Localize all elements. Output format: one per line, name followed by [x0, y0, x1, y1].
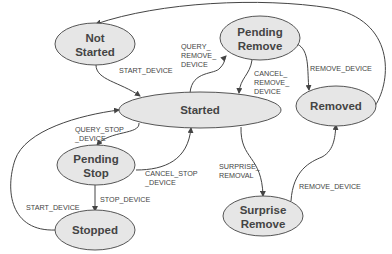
node-pending-stop: Pending Stop: [57, 145, 135, 185]
edge-label-query-stop: _DEVICE: [74, 134, 106, 143]
node-pending-remove: Pending Remove: [220, 16, 300, 60]
edge-label-query-stop: QUERY_STOP: [75, 125, 124, 134]
node-label: Pending: [73, 153, 118, 165]
node-not-started: Not Started: [55, 23, 135, 65]
edge-label-start-device: START_DEVICE: [26, 203, 80, 212]
edge-label-cancel-stop: _DEVICE: [144, 178, 176, 187]
edge-label-stop-device: STOP_DEVICE: [100, 195, 150, 204]
edge-label-start-device: START_DEVICE: [119, 66, 173, 75]
edge-label-cancel-remove: DEVICE: [254, 87, 281, 96]
node-label: Remove: [241, 218, 286, 230]
edge-label-query-remove: DEVICE: [181, 60, 208, 69]
edge-label-query-remove: QUERY_: [181, 42, 211, 51]
node-surprise-remove: Surprise Remove: [223, 196, 303, 236]
edge-label-cancel-stop: CANCEL_STOP: [145, 169, 198, 178]
state-diagram: Not Started Pending Remove Started Remov…: [0, 0, 392, 254]
edge-label-cancel-remove: REMOVE_: [254, 78, 290, 87]
edge-label-surprise-removal: SURPRISE_: [219, 162, 261, 171]
edge-label-query-remove: REMOVE_: [181, 51, 217, 60]
edge-label-remove-device: REMOVE_DEVICE: [310, 64, 372, 73]
node-started: Started: [119, 92, 281, 128]
edge-cancel-remove: [239, 60, 252, 93]
node-label: Started: [180, 104, 220, 116]
node-label: Removed: [310, 100, 362, 112]
edge-cancel-stop: [136, 128, 191, 170]
node-label: Started: [75, 46, 115, 58]
node-label: Remove: [238, 40, 283, 52]
node-removed: Removed: [296, 86, 376, 126]
edge-label-cancel-remove: CANCEL_: [254, 69, 288, 78]
edge-remove-device-pending-to-removed: [297, 44, 309, 90]
node-label: Not: [85, 32, 104, 44]
node-label: Stop: [83, 167, 109, 179]
node-label: Pending: [237, 26, 282, 38]
node-label: Stopped: [72, 224, 118, 236]
edge-label-surprise-removal: REMOVAL: [219, 171, 254, 180]
edge-label-remove-device: REMOVE_DEVICE: [299, 182, 361, 191]
node-stopped: Stopped: [55, 210, 135, 250]
node-label: Surprise: [240, 204, 287, 216]
